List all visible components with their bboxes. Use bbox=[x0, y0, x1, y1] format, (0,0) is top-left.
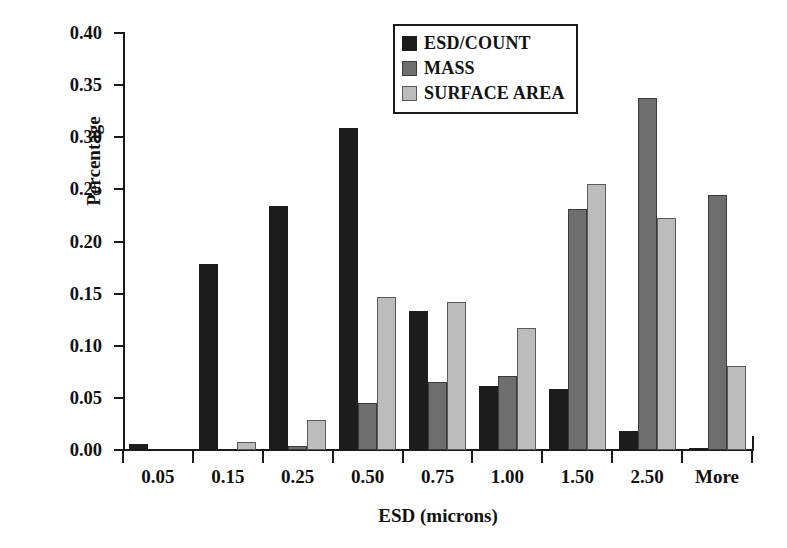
x-tick-mark bbox=[262, 450, 264, 463]
x-tick-mark bbox=[471, 450, 473, 463]
bar-surface-area-1.50 bbox=[587, 184, 606, 450]
x-tick-label: 0.15 bbox=[211, 466, 244, 488]
x-axis-title: ESD (microns) bbox=[123, 505, 753, 527]
bar-esd-count-0.05 bbox=[129, 444, 148, 450]
bar-esd-count-0.15 bbox=[199, 264, 218, 450]
x-tick-label: 1.50 bbox=[561, 466, 594, 488]
bar-esd-count-0.75 bbox=[409, 311, 428, 450]
y-tick-label: 0.25 bbox=[28, 179, 102, 200]
y-tick-label: 0.30 bbox=[28, 127, 102, 148]
y-tick-label: 0.05 bbox=[28, 387, 102, 408]
x-tick-label: 0.25 bbox=[281, 466, 314, 488]
x-tick-label: 2.50 bbox=[631, 466, 664, 488]
bar-surface-area-0.50 bbox=[377, 297, 396, 450]
y-tick-label: 0.15 bbox=[28, 283, 102, 304]
bar-surface-area-1.00 bbox=[517, 328, 536, 450]
bar-esd-count-More bbox=[689, 448, 708, 450]
bar-mass-1.50 bbox=[568, 209, 587, 450]
bar-surface-area-More bbox=[727, 366, 746, 450]
y-tick-label: 0.10 bbox=[28, 335, 102, 356]
bar-surface-area-0.15 bbox=[237, 442, 256, 450]
y-tick-label: 0.00 bbox=[28, 440, 102, 461]
x-tick-label: 0.75 bbox=[421, 466, 454, 488]
legend-label: ESD/COUNT bbox=[424, 33, 531, 54]
legend-swatch-icon bbox=[402, 36, 417, 51]
x-tick-label: 0.05 bbox=[141, 466, 174, 488]
legend-swatch-icon bbox=[402, 86, 417, 101]
x-tick-mark bbox=[541, 450, 543, 463]
x-tick-mark bbox=[611, 450, 613, 463]
bar-esd-count-2.50 bbox=[619, 431, 638, 450]
y-tick-label: 0.20 bbox=[28, 231, 102, 252]
bar-esd-count-0.25 bbox=[269, 206, 288, 450]
x-tick-mark bbox=[681, 450, 683, 463]
bar-esd-count-1.00 bbox=[479, 386, 498, 450]
legend-label: MASS bbox=[424, 58, 475, 79]
x-tick-label: More bbox=[695, 466, 739, 488]
legend-item-mass: MASS bbox=[402, 56, 565, 81]
bar-esd-count-0.50 bbox=[339, 128, 358, 450]
legend-item-esd-count: ESD/COUNT bbox=[402, 31, 565, 56]
legend-label: SURFACE AREA bbox=[424, 83, 565, 104]
chart-legend: ESD/COUNTMASSSURFACE AREA bbox=[393, 24, 578, 114]
bar-mass-0.75 bbox=[428, 382, 447, 450]
x-tick-label: 1.00 bbox=[491, 466, 524, 488]
x-axis-end-tick bbox=[752, 436, 754, 451]
x-tick-mark bbox=[122, 450, 124, 463]
y-tick-label: 0.40 bbox=[28, 23, 102, 44]
bar-surface-area-0.75 bbox=[447, 302, 466, 450]
bar-chart-figure: Percentage 0.000.050.100.150.200.250.300… bbox=[0, 0, 787, 548]
legend-swatch-icon bbox=[402, 61, 417, 76]
y-tick-label: 0.35 bbox=[28, 75, 102, 96]
bar-mass-0.50 bbox=[358, 403, 377, 450]
bar-mass-0.25 bbox=[288, 446, 307, 450]
bar-esd-count-1.50 bbox=[549, 389, 568, 451]
bar-mass-2.50 bbox=[638, 98, 657, 450]
x-tick-mark bbox=[751, 450, 753, 463]
y-axis-title: Percentage bbox=[83, 81, 105, 241]
bar-mass-1.00 bbox=[498, 376, 517, 450]
x-tick-mark bbox=[192, 450, 194, 463]
x-tick-label: 0.50 bbox=[351, 466, 384, 488]
bar-surface-area-0.25 bbox=[307, 420, 326, 450]
bar-surface-area-2.50 bbox=[657, 218, 676, 450]
x-tick-mark bbox=[332, 450, 334, 463]
x-tick-mark bbox=[402, 450, 404, 463]
bar-mass-More bbox=[708, 195, 727, 450]
legend-item-surface-area: SURFACE AREA bbox=[402, 81, 565, 106]
